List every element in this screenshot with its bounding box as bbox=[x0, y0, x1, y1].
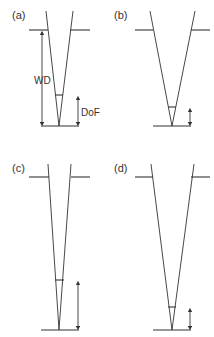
panel-c: (c) bbox=[12, 162, 90, 330]
panel-d: (d) bbox=[114, 162, 210, 330]
cone-left-edge bbox=[48, 164, 59, 330]
cone-right-edge bbox=[172, 164, 194, 330]
panel-b-label: (b) bbox=[114, 9, 127, 21]
cone-right-edge bbox=[172, 11, 195, 126]
wd-label: WD bbox=[34, 75, 51, 86]
dof-label: DoF bbox=[81, 107, 100, 118]
panel-b: (b) bbox=[114, 9, 210, 126]
cone-left-edge bbox=[151, 164, 172, 330]
cone-right-edge bbox=[59, 11, 73, 126]
cone-right-edge bbox=[59, 164, 71, 330]
panel-a-label: (a) bbox=[12, 9, 25, 21]
cone-left-edge bbox=[46, 11, 59, 126]
panel-a: (a) WD DoF bbox=[12, 9, 100, 126]
panel-c-label: (c) bbox=[12, 162, 25, 174]
panel-d-label: (d) bbox=[114, 162, 127, 174]
depth-of-field-diagram: (a) WD DoF (b) (c) (d) bbox=[0, 0, 214, 337]
cone-left-edge bbox=[150, 11, 172, 126]
